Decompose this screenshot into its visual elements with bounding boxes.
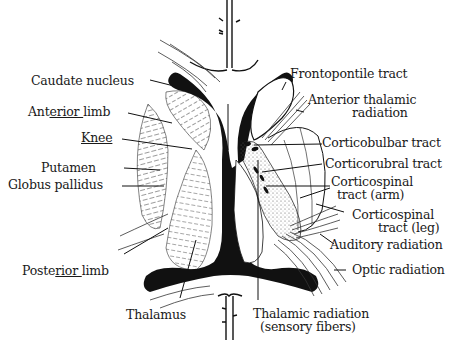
label-corticospinal-arm: Corticospinal tract (arm) [331, 175, 413, 201]
label-putamen: Putamen [41, 161, 96, 174]
label-thalamus: Thalamus [126, 308, 186, 321]
label-corticorubral-tract: Corticorubral tract [325, 157, 442, 170]
label-anterior-thalamic-radiation-line2: radiation [308, 106, 416, 119]
label-corticospinal-leg: Corticospinal tract (leg) [352, 208, 439, 234]
longitudinal-fissure-top [190, 0, 258, 71]
label-posterior-limb: Posterior limb [22, 264, 109, 277]
label-thalamic-radiation-line2: (sensory fibers) [253, 320, 369, 333]
label-anterior-limb: Anterior limb [28, 105, 110, 118]
label-globus-pallidus: Globus pallidus [8, 178, 103, 191]
label-anterior-limb-prefix: Ant [28, 104, 50, 119]
label-knee: Knee [81, 131, 112, 144]
label-anterior-limb-suffix: limb [83, 104, 110, 119]
label-posterior-limb-underlined: rior [55, 263, 81, 278]
label-posterior-limb-prefix: Poste [22, 263, 55, 278]
label-corticospinal-leg-line2: tract (leg) [352, 221, 439, 234]
label-anterior-thalamic-radiation: Anterior thalamic radiation [308, 93, 416, 119]
label-corticospinal-arm-line2: tract (arm) [331, 188, 413, 201]
label-optic-radiation: Optic radiation [352, 263, 445, 276]
label-knee-underlined: Knee [81, 130, 112, 145]
label-caudate-nucleus: Caudate nucleus [31, 74, 134, 87]
label-anterior-limb-underlined: erior [50, 104, 84, 119]
globus-pallidus-shape [166, 150, 212, 270]
longitudinal-fissure-bottom [218, 294, 242, 340]
label-posterior-limb-suffix: limb [82, 263, 109, 278]
label-frontopontile-tract: Frontopontile tract [290, 67, 407, 80]
label-thalamic-radiation: Thalamic radiation (sensory fibers) [253, 307, 369, 333]
label-corticobulbar-tract: Corticobulbar tract [322, 136, 441, 149]
label-auditory-radiation: Auditory radiation [330, 238, 443, 251]
anterior-limb-oval [251, 78, 294, 140]
putamen-shape [137, 104, 168, 229]
